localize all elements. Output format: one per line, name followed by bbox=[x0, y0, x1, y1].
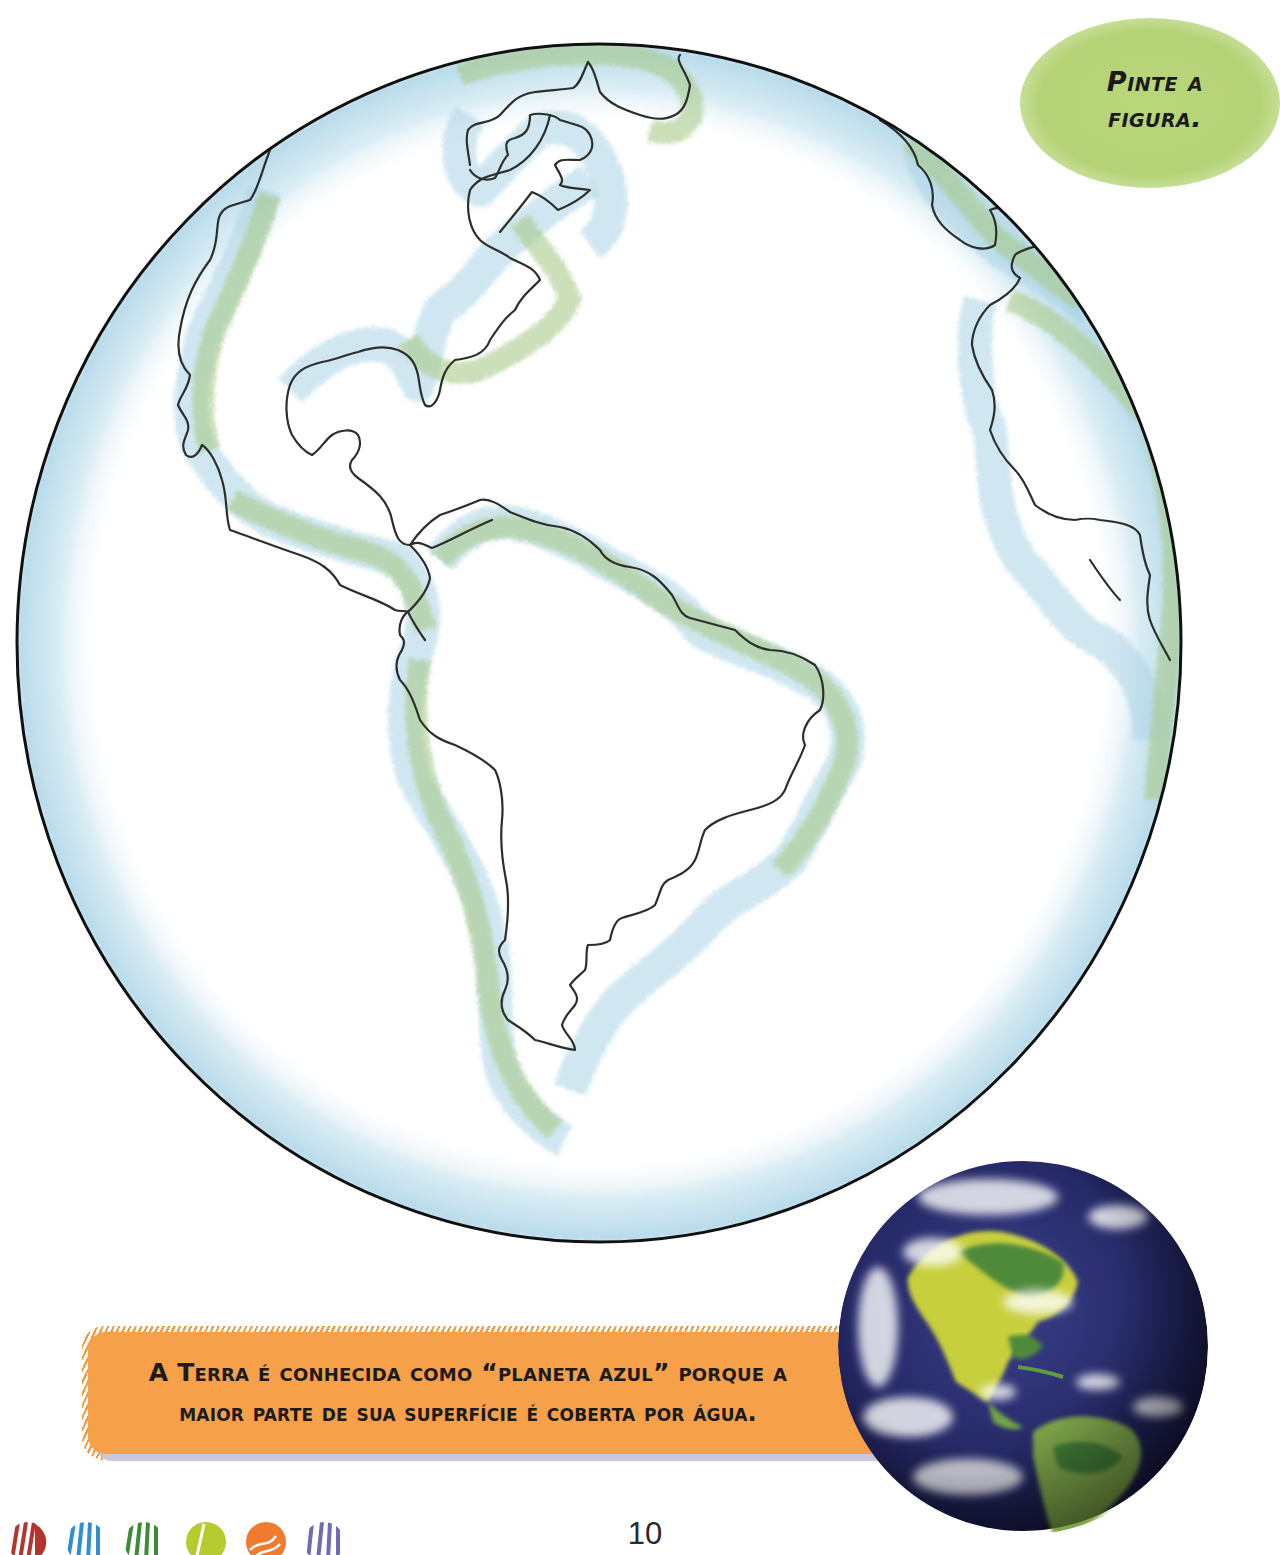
page-number: 10 bbox=[595, 1516, 695, 1552]
earth-photo bbox=[838, 1157, 1208, 1535]
instruction-text: Pinte a figura. bbox=[1070, 64, 1240, 136]
striped-dot-icon bbox=[12, 1522, 46, 1555]
swirl-dot-icon bbox=[246, 1522, 286, 1555]
solid-dot-icon bbox=[186, 1522, 226, 1555]
striped-dot-icon bbox=[68, 1522, 98, 1555]
fact-line-1: A Terra é conhecida como “planeta azul” … bbox=[149, 1353, 788, 1393]
instruction-line-1: Pinte a bbox=[1070, 64, 1240, 100]
footer-decoration bbox=[0, 1520, 360, 1555]
fact-line-2: maior parte de sua superfície é coberta … bbox=[179, 1393, 757, 1433]
instruction-line-2: figura. bbox=[1070, 100, 1240, 136]
striped-dot-icon bbox=[126, 1522, 156, 1555]
striped-dot-icon bbox=[308, 1522, 338, 1555]
fact-box: A Terra é conhecida como “planeta azul” … bbox=[88, 1332, 878, 1454]
fact-text: A Terra é conhecida como “planeta azul” … bbox=[88, 1332, 848, 1454]
earth-photo-icon bbox=[838, 1157, 1208, 1535]
